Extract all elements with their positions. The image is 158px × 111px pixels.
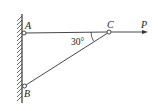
wall-hatching — [17, 16, 22, 101]
label-c: C — [107, 19, 114, 30]
angle-arc — [91, 32, 94, 41]
wall-support — [17, 14, 22, 103]
pin-a — [22, 31, 26, 35]
label-p: P — [140, 19, 147, 30]
angle-label: 30° — [71, 37, 85, 47]
truss-diagram: A B C P 30° — [0, 0, 158, 111]
member-ac — [25, 32, 107, 33]
member-bc — [26, 34, 107, 86]
label-b: B — [24, 88, 30, 99]
pin-c — [107, 30, 111, 34]
force-arrow-p — [111, 30, 148, 34]
label-a: A — [24, 20, 32, 31]
